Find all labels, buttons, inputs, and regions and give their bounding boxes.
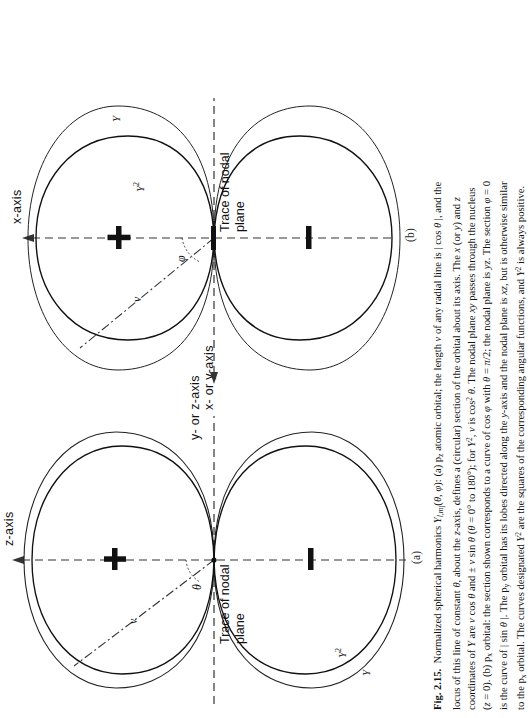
theta-angle-arc-a [186, 560, 200, 582]
nucleus-dot-a [211, 557, 216, 562]
caption-line-2: locus of this line of constant θ, about … [449, 10, 464, 710]
panel-a-nodal-label-line1: Trace of nodal [218, 565, 233, 644]
panel-a-nodal-label-line2: plane [233, 565, 248, 644]
nucleus-marker-b [211, 226, 216, 250]
caption-line-1: Fig. 2.15. Normalized spherical harmonic… [430, 10, 449, 710]
z-axis-arrowhead [12, 556, 24, 564]
panel-a-caption-label: (a) [410, 551, 422, 564]
panel-b-radius-symbol: v [130, 297, 145, 302]
figure-panel-a: z-axis x- or y-axis Y2 Y θ v Trace of no… [4, 410, 424, 710]
figure-caption: Fig. 2.15. Normalized spherical harmonic… [430, 10, 530, 710]
panel-a-drawing [4, 410, 424, 710]
caption-line-4: (z = 0). (b) px orbital: the section sho… [479, 10, 496, 710]
radial-line-v-b [80, 238, 214, 348]
panel-b-x-axis-label: x-axis [10, 190, 24, 224]
figure-panel-b: x-axis y- or z-axis Y2 Y φ v Trace of no… [14, 88, 414, 388]
z-axis-line [12, 556, 406, 564]
negative-sign-a [308, 548, 314, 570]
panel-b-drawing [14, 88, 414, 388]
caption-line-6: to the px orbital. The curves designated… [513, 10, 530, 710]
panel-a-z-axis-label: z-axis [2, 512, 16, 546]
positive-sign-a [104, 548, 126, 570]
caption-figure-number: Fig. 2.15. [432, 669, 443, 710]
panel-b-horizontal-axis-label: y- or z-axis [188, 375, 202, 440]
panel-b-curve-label-Y: Y [110, 116, 122, 122]
panel-a-nodal-plane-label: Trace of nodal plane [218, 565, 248, 644]
x-axis-line [22, 234, 396, 242]
panel-b-nodal-label-line2: plane [233, 153, 248, 232]
y-or-z-axis-arrowhead [210, 372, 218, 384]
positive-sign-b [108, 226, 131, 249]
panel-a-theta-symbol: θ [190, 584, 205, 590]
panel-b-phi-symbol: φ [174, 255, 189, 262]
negative-sign-b [306, 226, 312, 249]
panel-b-nodal-plane-label: Trace of nodal plane [218, 153, 248, 232]
caption-line-5: is the curve of | sin θ |. The py orbita… [496, 10, 513, 710]
panel-a-radius-symbol: v [126, 619, 141, 624]
caption-line-3: coordinates of Y are v cos θ and ± v sin… [464, 10, 479, 710]
panel-a-curve-label-Ysq: Y2 [334, 648, 348, 658]
panel-b-curve-label-Ysq: Y2 [132, 182, 146, 192]
panel-a-curve-label-Y: Y [360, 670, 372, 676]
panel-b-caption-label: (b) [404, 228, 416, 242]
panel-b-nodal-label-line1: Trace of nodal [218, 153, 233, 232]
